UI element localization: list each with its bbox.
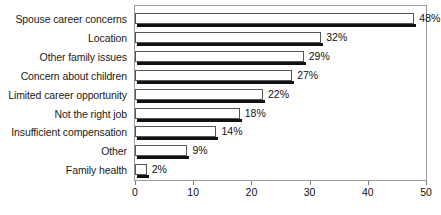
bar-value-label: 32% — [326, 31, 347, 43]
bar-value-label: 18% — [245, 107, 266, 119]
bar-shadow — [137, 43, 323, 46]
category-label: Spouse career concerns — [0, 13, 127, 25]
bar-row: 22% — [135, 89, 428, 105]
x-axis-tick-label: 40 — [362, 186, 374, 198]
bar-value-label: 48% — [419, 12, 440, 24]
bar-row: 2% — [135, 164, 428, 180]
bar-shadow — [137, 81, 294, 84]
plot-area: 48%32%29%27%22%18%14%9%2% — [134, 5, 427, 181]
x-axis-tick — [251, 181, 252, 185]
bar-row: 27% — [135, 70, 428, 86]
category-label: Other — [0, 145, 127, 157]
category-axis: Spouse career concernsLocationOther fami… — [0, 5, 131, 181]
bar-shadow — [137, 119, 242, 122]
x-axis-tick — [310, 181, 311, 185]
bar — [135, 126, 216, 137]
bar — [135, 32, 321, 43]
x-axis-tick — [368, 181, 369, 185]
bar — [135, 108, 240, 119]
category-label: Other family issues — [0, 51, 127, 63]
bar-value-label: 22% — [268, 88, 289, 100]
category-label: Not the right job — [0, 108, 127, 120]
bar-row: 32% — [135, 32, 428, 48]
category-label: Concern about children — [0, 70, 127, 82]
bar-row: 9% — [135, 145, 428, 161]
bar-shadow — [137, 156, 189, 159]
bar-shadow — [137, 175, 149, 178]
bar-value-label: 14% — [221, 125, 242, 137]
x-axis-tick-label: 20 — [246, 186, 258, 198]
bar-row: 48% — [135, 13, 428, 29]
category-label: Insufficient compensation — [0, 126, 127, 138]
x-axis-tick-label: 0 — [132, 186, 138, 198]
x-axis-tick-label: 50 — [420, 186, 432, 198]
bar-shadow — [137, 100, 265, 103]
bar — [135, 70, 292, 81]
bar-shadow — [137, 24, 416, 27]
x-axis-tick-label: 10 — [187, 186, 199, 198]
bar-row: 18% — [135, 108, 428, 124]
bar-value-label: 2% — [152, 163, 167, 175]
bar — [135, 164, 147, 175]
bar — [135, 145, 187, 156]
x-axis: 01020304050 — [134, 181, 427, 211]
bar-value-label: 29% — [309, 50, 330, 62]
category-label: Family health — [0, 164, 127, 176]
x-axis-tick — [193, 181, 194, 185]
bar-value-label: 27% — [297, 69, 318, 81]
category-label: Location — [0, 32, 127, 44]
bar-shadow — [137, 62, 306, 65]
bar-value-label: 9% — [192, 144, 207, 156]
x-axis-tick-label: 30 — [304, 186, 316, 198]
bar — [135, 89, 263, 100]
bar-chart: Spouse career concernsLocationOther fami… — [0, 0, 441, 215]
x-axis-tick — [426, 181, 427, 185]
x-axis-tick — [135, 181, 136, 185]
bar — [135, 13, 414, 24]
bar-row: 14% — [135, 126, 428, 142]
bar-row: 29% — [135, 51, 428, 67]
bar — [135, 51, 304, 62]
bar-shadow — [137, 137, 218, 140]
category-label: Limited career opportunity — [0, 89, 127, 101]
